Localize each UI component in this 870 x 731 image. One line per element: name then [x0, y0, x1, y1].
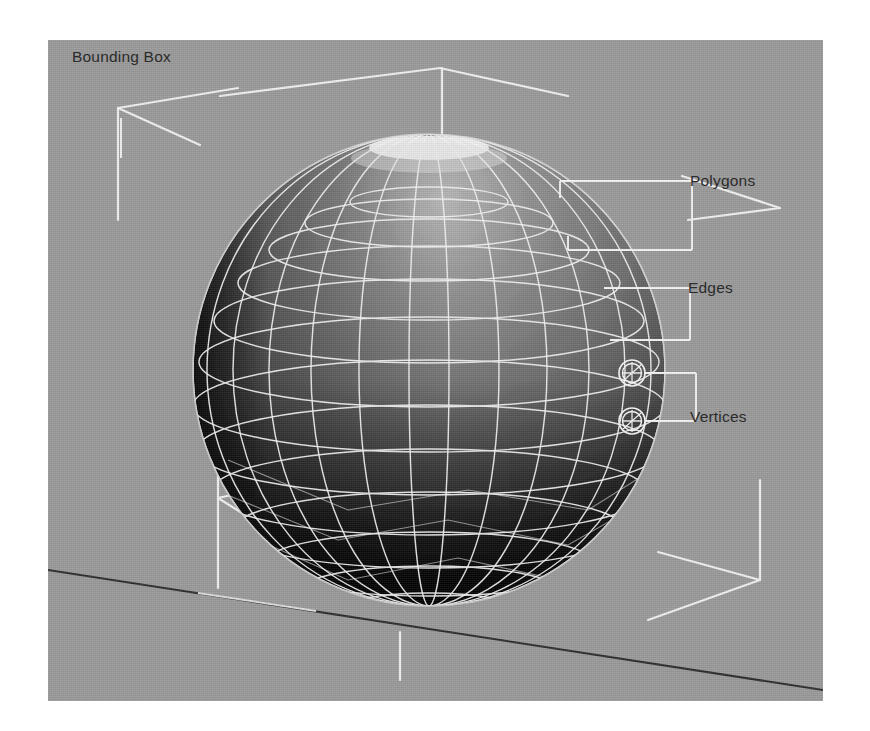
- scene-svg: [48, 40, 823, 701]
- sphere-mesh[interactable]: [162, 103, 695, 636]
- label-vertices: Vertices: [690, 408, 747, 426]
- vertex-marker[interactable]: [619, 360, 645, 386]
- bbox-corner-top-left: [118, 88, 238, 220]
- bbox-corner-bottom-right: [648, 480, 760, 620]
- diagram-stage: Bounding Box Polygons Edges Vertices: [0, 0, 870, 731]
- label-edges: Edges: [688, 279, 733, 297]
- label-bounding-box: Bounding Box: [72, 48, 171, 66]
- ground-axis-highlight: [198, 593, 316, 611]
- viewport-3d[interactable]: [48, 40, 823, 701]
- ground-axis-front: [198, 593, 316, 611]
- vertex-marker[interactable]: [619, 408, 645, 434]
- label-polygons: Polygons: [690, 172, 755, 190]
